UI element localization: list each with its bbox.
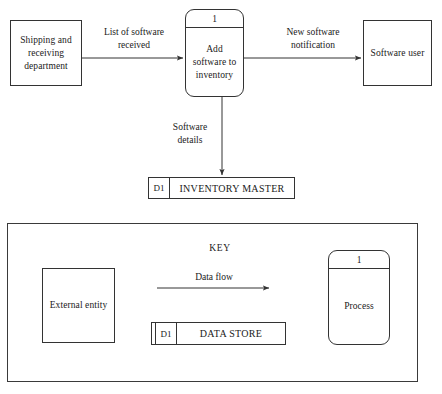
flow-label-new-software-notification: New software notification <box>258 26 368 51</box>
diagram-canvas: Shipping and receiving department 1 Add … <box>0 0 442 394</box>
key-data-flow-label: Data flow <box>158 271 270 284</box>
key-data-store-sample: D1 DATA STORE <box>151 322 286 345</box>
external-entity-label: Software user <box>371 47 425 60</box>
process-number: 1 <box>186 10 243 28</box>
key-process-number: 1 <box>329 251 389 269</box>
process-label: Add software to inventory <box>190 43 239 82</box>
data-store-code: D1 <box>149 178 170 198</box>
key-title: KEY <box>180 243 260 253</box>
key-data-store-code: D1 <box>155 323 177 344</box>
key-external-entity-label: External entity <box>50 299 108 312</box>
key-external-entity-sample: External entity <box>42 268 115 343</box>
data-store-inventory-master[interactable]: D1 INVENTORY MASTER <box>148 177 295 199</box>
key-process-label: Process <box>344 300 374 313</box>
external-entity-software-user[interactable]: Software user <box>363 20 432 86</box>
key-data-store-name: DATA STORE <box>177 323 285 344</box>
key-process-sample: 1 Process <box>328 250 390 345</box>
external-entity-shipping-receiving[interactable]: Shipping and receiving department <box>10 20 82 86</box>
flow-label-list-of-software-received: List of software received <box>84 26 184 51</box>
flow-label-software-details: Software details <box>160 121 220 146</box>
process-add-software-to-inventory[interactable]: 1 Add software to inventory <box>185 9 244 97</box>
external-entity-label: Shipping and receiving department <box>11 34 81 73</box>
data-store-name: INVENTORY MASTER <box>170 178 294 198</box>
